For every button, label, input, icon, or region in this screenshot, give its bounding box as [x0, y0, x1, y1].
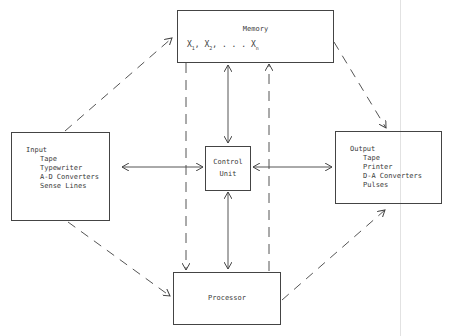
output-item-pulses: Pulses [363, 181, 388, 190]
output-title: Output [350, 145, 375, 154]
input-title: Input [26, 146, 47, 155]
output-item-da-converters: D-A Converters [363, 172, 422, 181]
memory-box [177, 10, 334, 63]
memory-contents: X1, X2, . . . Xn [187, 40, 259, 53]
control-unit-box [205, 146, 251, 191]
processor-title: Processor [173, 294, 281, 303]
edge-input-memory [65, 38, 172, 131]
input-item-tape: Tape [40, 155, 57, 164]
memory-ellipsis: . . . [222, 40, 246, 49]
input-item-ad-converters: A-D Converters [40, 173, 99, 182]
memory-title: Memory [177, 25, 334, 34]
output-item-tape: Tape [363, 154, 380, 163]
control-unit-label-line2: Unit [205, 170, 251, 179]
edge-memory-output [334, 42, 386, 128]
memory-x2-sub: 2 [209, 45, 212, 51]
control-unit-label-line1: Control [205, 158, 251, 167]
edge-input-processor [68, 222, 170, 296]
output-item-printer: Printer [363, 163, 393, 172]
input-item-sense-lines: Sense Lines [40, 182, 86, 191]
memory-xn-sub: n [256, 45, 259, 51]
input-item-typewriter: Typewriter [40, 164, 82, 173]
edge-processor-output [282, 210, 385, 300]
memory-x1-sub: 1 [192, 45, 195, 51]
